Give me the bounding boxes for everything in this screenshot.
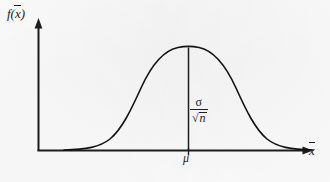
y-axis-arrowhead bbox=[35, 18, 43, 29]
radical-sign-icon: √ bbox=[192, 111, 199, 125]
x-axis-tick-label-mu: μ bbox=[183, 152, 189, 164]
y-axis-label-xbar: x bbox=[15, 7, 21, 20]
y-axis-label-paren: ) bbox=[21, 6, 25, 21]
fraction-bar bbox=[190, 109, 208, 110]
sigma-symbol: σ bbox=[190, 96, 208, 109]
standard-error-annotation: σ √n bbox=[190, 96, 208, 124]
x-axis-label: x bbox=[309, 144, 315, 157]
radicand-n: n bbox=[199, 112, 206, 124]
y-axis-label: f(x) bbox=[7, 7, 25, 20]
x-axis-label-xbar: x bbox=[309, 144, 315, 157]
y-axis-label-fn: f( bbox=[7, 6, 15, 21]
normal-distribution-figure: f(x) x μ σ √n bbox=[0, 0, 330, 182]
plot-canvas bbox=[0, 0, 330, 182]
sqrt-n-denominator: √n bbox=[190, 111, 208, 124]
